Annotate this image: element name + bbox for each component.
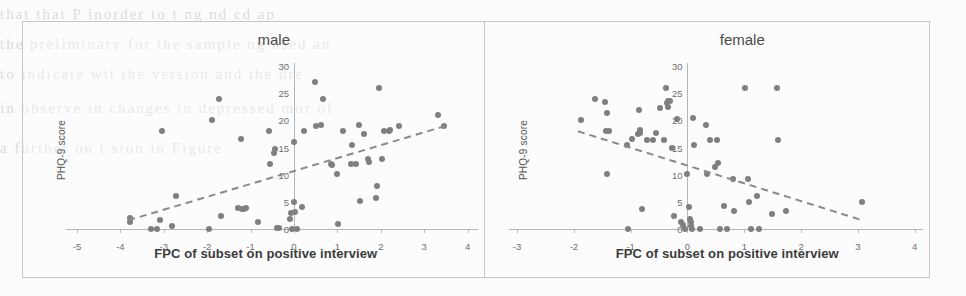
trendline-female [485,22,929,277]
figure-container: that that P inorder to t ng nd cd ap the… [0,0,966,296]
chart-panel-female: female PHQ-9 score FPC of subset on posi… [485,22,929,277]
plot-area-female: -3-2-101234051015202530 [485,22,929,277]
trendline-male [23,22,484,277]
chart-panel-group: male PHQ-9 score FPC of subset on positi… [22,21,930,278]
plot-area-male: -5-4-3-2-101234051015202530 [23,22,484,277]
chart-panel-male: male PHQ-9 score FPC of subset on positi… [23,22,485,277]
